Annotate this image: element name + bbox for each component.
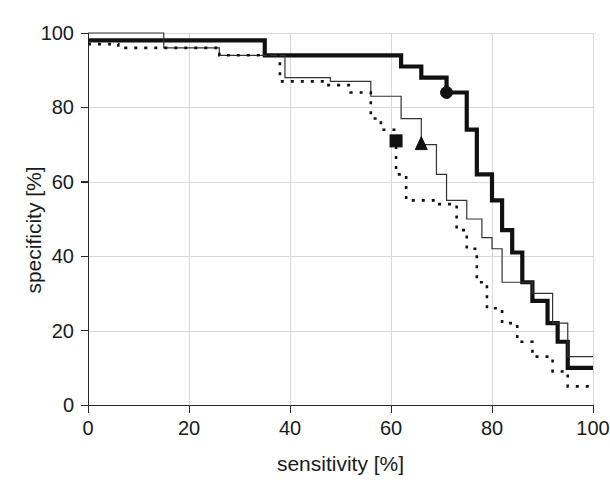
dotted-curve (88, 44, 593, 386)
thick-solid-curve (88, 40, 593, 367)
circle-marker (441, 87, 453, 99)
triangle-marker (415, 137, 427, 150)
square-marker (390, 135, 402, 147)
thin-solid-curve (88, 33, 593, 357)
